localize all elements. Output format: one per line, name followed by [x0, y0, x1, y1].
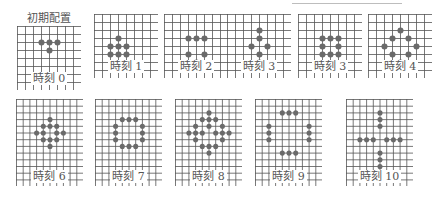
stone — [405, 51, 411, 57]
stone — [113, 124, 118, 129]
stone — [319, 51, 325, 57]
stone — [38, 39, 44, 45]
time-label: 時刻 6 — [16, 171, 83, 183]
stone — [293, 151, 298, 156]
grid-panel: 時刻 3 — [227, 14, 291, 78]
stone — [266, 130, 271, 135]
stone — [307, 124, 312, 129]
stone — [384, 137, 389, 142]
stone — [133, 117, 138, 122]
stone — [213, 130, 218, 135]
stone — [34, 130, 39, 135]
stone — [307, 137, 312, 142]
stone — [193, 35, 199, 41]
stone — [405, 35, 411, 41]
stone — [47, 137, 52, 142]
time-label: 時刻 0 — [17, 73, 81, 85]
stone — [319, 43, 325, 49]
stone — [280, 151, 285, 156]
stone — [54, 130, 59, 135]
stone — [381, 43, 387, 49]
stone — [200, 144, 205, 149]
time-label: 時刻 2 — [164, 61, 228, 73]
stone — [47, 144, 52, 149]
stone — [123, 51, 129, 57]
stone — [266, 137, 271, 142]
grid-panel: 時刻 7 — [95, 99, 162, 186]
stone — [389, 35, 395, 41]
initial-config-title: 初期配置 — [27, 9, 71, 25]
time-label: 時刻 7 — [95, 171, 162, 183]
stone — [413, 43, 419, 49]
stone — [107, 43, 113, 49]
stone — [377, 110, 382, 115]
stone — [193, 124, 198, 129]
stone — [113, 137, 118, 142]
stone — [46, 39, 52, 45]
stone — [120, 144, 125, 149]
stone — [389, 51, 395, 57]
stone — [256, 27, 262, 33]
grid-panel: 時刻 1 — [94, 14, 158, 78]
stone — [54, 124, 59, 129]
stone — [126, 117, 131, 122]
stone — [193, 137, 198, 142]
stone — [256, 51, 262, 57]
stone — [140, 130, 145, 135]
stone — [335, 43, 341, 49]
stone — [391, 137, 396, 142]
stone — [140, 137, 145, 142]
stone — [123, 43, 129, 49]
stone — [264, 43, 270, 49]
stone — [280, 110, 285, 115]
grid-panel: 時刻 0 — [17, 26, 81, 90]
stone — [377, 157, 382, 162]
stone — [377, 151, 382, 156]
stone — [220, 130, 225, 135]
grid-panel: 時刻 8 — [175, 99, 242, 186]
stone — [335, 35, 341, 41]
grid-panel: 時刻 2 — [164, 14, 228, 78]
stone — [54, 137, 59, 142]
stone — [357, 137, 362, 142]
stone — [185, 35, 191, 41]
stone — [126, 144, 131, 149]
stone — [206, 144, 211, 149]
stone — [200, 130, 205, 135]
stone — [398, 137, 403, 142]
stone — [201, 35, 207, 41]
stone — [327, 35, 333, 41]
stone — [364, 137, 369, 142]
stone — [41, 130, 46, 135]
stone — [307, 130, 312, 135]
grid-panel: 時刻 9 — [255, 99, 322, 186]
stone — [206, 110, 211, 115]
stone — [248, 43, 254, 49]
stone — [377, 124, 382, 129]
stone — [200, 117, 205, 122]
stone — [371, 137, 376, 142]
stone — [185, 51, 191, 57]
stone — [266, 124, 271, 129]
stone — [107, 51, 113, 57]
stone — [377, 117, 382, 122]
stone — [335, 51, 341, 57]
stone — [115, 43, 121, 49]
stone — [256, 35, 262, 41]
stone — [206, 151, 211, 156]
stone — [41, 137, 46, 142]
time-label: 時刻 4 — [368, 61, 432, 73]
stone — [47, 124, 52, 129]
stone — [186, 130, 191, 135]
stone — [140, 124, 145, 129]
time-label: 時刻 10 — [346, 171, 413, 183]
stone — [113, 130, 118, 135]
stone — [220, 137, 225, 142]
stone — [133, 144, 138, 149]
grid-panel: 時刻 4 — [368, 14, 432, 78]
stone — [115, 51, 121, 57]
stone — [120, 117, 125, 122]
grid-panel: 時刻 10 — [346, 99, 413, 186]
stone — [115, 35, 121, 41]
grid-panel: 時刻 6 — [16, 99, 83, 186]
